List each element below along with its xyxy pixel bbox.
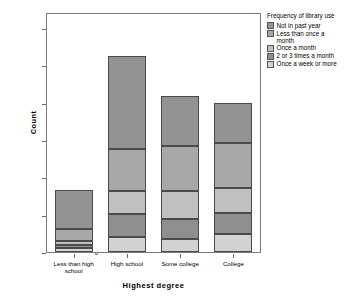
bar-high-school[interactable] [108,56,146,252]
bar-segment[interactable] [55,241,93,245]
legend-item-label: 2 or 3 times a month [277,52,334,59]
legend-item[interactable]: Not in past year [267,22,361,30]
x-tick-label-line: College [203,260,263,267]
legend-item-label-line: Not in past year [277,22,321,29]
bar-segment[interactable] [161,191,199,219]
x-tick-label: High school [97,260,157,267]
legend-swatch [267,22,274,29]
bar-segment[interactable] [108,149,146,191]
x-tick-mark [127,254,128,258]
bar-segment[interactable] [214,213,252,234]
legend-item-label-line: Once a week or more [277,60,337,67]
legend-item-label-line: 2 or 3 times a month [277,52,334,59]
x-tick-label-line: Some college [150,260,210,267]
x-tick-mark [180,254,181,258]
bar-college[interactable] [214,103,252,252]
x-tick-label: Less than highschool [44,260,104,274]
chart-root: Count 02004006008001,0001,200 Less than … [0,0,363,297]
legend-item[interactable]: 2 or 3 times a month [267,52,361,60]
legend-title: Frequency of library use [267,12,361,20]
plot-area [46,13,261,253]
bar-segment[interactable] [161,239,199,252]
legend-item-label-line: Less than once a [277,30,325,37]
x-tick-label-line: school [44,267,104,274]
legend: Frequency of library use Not in past yea… [267,12,361,68]
bar-segment[interactable] [108,56,146,149]
bar-segment[interactable] [55,248,93,252]
bar-segment[interactable] [55,229,93,242]
legend-item-label-line: month [277,37,325,44]
x-tick-label: College [203,260,263,267]
legend-item[interactable]: Once a week or more [267,60,361,68]
legend-item-label-line: Once a month [277,44,317,51]
x-tick-label-line: Less than high [44,260,104,267]
bar-segment[interactable] [108,191,146,214]
bar-segment[interactable] [108,237,146,252]
y-tick-mark [42,253,46,254]
legend-swatch [267,30,274,37]
bar-segment[interactable] [161,146,199,191]
bar-segment[interactable] [214,234,252,252]
bar-less-than-high-school[interactable] [55,190,93,252]
x-tick-mark [233,254,234,258]
x-tick-label-line: High school [97,260,157,267]
bar-segment[interactable] [161,96,199,145]
bar-segment[interactable] [161,219,199,239]
bar-segment[interactable] [55,245,93,248]
y-axis-title: Count [29,88,38,158]
legend-item-label: Less than once amonth [277,30,325,44]
bar-segment[interactable] [214,103,252,143]
legend-item-label: Once a week or more [277,60,337,67]
bar-segment[interactable] [55,190,93,229]
legend-swatch [267,53,274,60]
x-axis-title: Highest degree [46,281,261,290]
legend-swatch [267,61,274,68]
bar-segment[interactable] [214,188,252,213]
legend-item[interactable]: Less than once amonth [267,30,361,44]
x-tick-label: Some college [150,260,210,267]
bar-some-college[interactable] [161,96,199,252]
legend-items: Not in past yearLess than once amonthOnc… [267,22,361,68]
legend-item-label: Not in past year [277,22,321,29]
bar-segment[interactable] [108,214,146,237]
x-tick-mark [74,254,75,258]
legend-item-label: Once a month [277,44,317,51]
legend-swatch [267,45,274,52]
bar-segment[interactable] [214,143,252,187]
legend-item[interactable]: Once a month [267,44,361,52]
